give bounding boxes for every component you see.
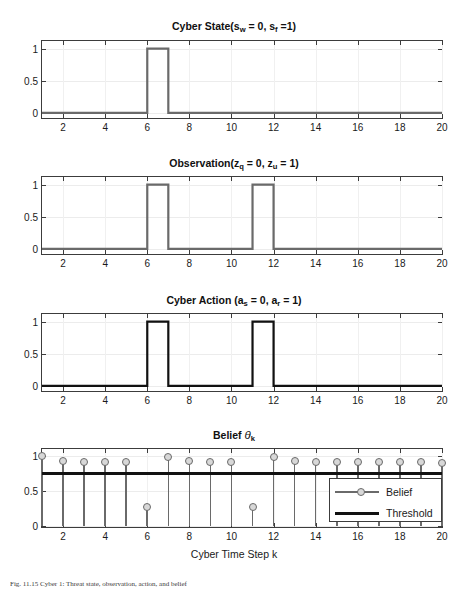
x-tick-mark xyxy=(105,449,106,453)
x-tick-label: 18 xyxy=(394,122,405,133)
figure-root: Cyber State(sw = 0, sf =1) 00.5124681012… xyxy=(0,0,468,590)
x-tick-label: 8 xyxy=(187,395,193,406)
x-tick-mark xyxy=(400,449,401,453)
y-tick-label: 0 xyxy=(32,107,38,118)
step-line xyxy=(42,49,442,113)
gridline-vertical xyxy=(442,314,443,391)
x-tick-label: 4 xyxy=(102,258,108,269)
belief-marker[interactable] xyxy=(122,458,130,466)
stem-line xyxy=(189,461,191,526)
x-tick-label: 18 xyxy=(394,395,405,406)
x-tick-label: 18 xyxy=(394,531,405,542)
x-tick-mark xyxy=(442,250,443,254)
step-line xyxy=(42,185,442,249)
x-tick-label: 6 xyxy=(144,531,150,542)
belief-marker[interactable] xyxy=(249,503,257,511)
title-end: = 1) xyxy=(280,294,301,306)
x-tick-label: 16 xyxy=(352,258,363,269)
title-text: Belief xyxy=(213,429,245,441)
x-tick-label: 20 xyxy=(436,531,447,542)
x-tick-label: 18 xyxy=(394,258,405,269)
x-tick-label: 14 xyxy=(310,395,321,406)
x-tick-mark xyxy=(316,449,317,453)
title-text: Cyber Action (a xyxy=(166,294,243,306)
x-tick-label: 12 xyxy=(268,395,279,406)
belief-marker[interactable] xyxy=(270,453,278,461)
x-tick-label: 16 xyxy=(352,122,363,133)
panel-title-belief: Belief θk xyxy=(0,429,468,443)
x-tick-label: 2 xyxy=(60,258,66,269)
title-text: Cyber State(s xyxy=(172,20,240,32)
belief-marker[interactable] xyxy=(396,458,404,466)
step-series xyxy=(42,41,442,118)
belief-marker[interactable] xyxy=(227,458,235,466)
y-tick-label: 0 xyxy=(32,243,38,254)
x-tick-label: 2 xyxy=(60,395,66,406)
stem-line xyxy=(273,457,275,526)
gridline-horizontal xyxy=(42,526,442,527)
x-tick-label: 4 xyxy=(102,395,108,406)
legend-item-threshold[interactable]: Threshold xyxy=(335,507,433,519)
x-tick-mark xyxy=(442,314,443,318)
x-tick-label: 2 xyxy=(60,122,66,133)
x-tick-label: 8 xyxy=(187,531,193,542)
x-tick-mark xyxy=(442,177,443,181)
belief-marker[interactable] xyxy=(101,458,109,466)
y-tick-label: 1 xyxy=(32,179,38,190)
figure-caption: Fig. 11.15 Cyber 1: Threat state, observ… xyxy=(10,580,460,589)
title-mid: = 0, z xyxy=(244,157,273,169)
y-tick-label: 0.5 xyxy=(24,348,38,359)
legend-item-belief[interactable]: Belief xyxy=(335,486,412,498)
belief-marker[interactable] xyxy=(417,458,425,466)
x-tick-label: 12 xyxy=(268,258,279,269)
legend-marker-icon xyxy=(357,488,365,496)
panel-belief: Belief θk 00.512468101214161820BeliefThr… xyxy=(0,420,468,590)
belief-marker[interactable] xyxy=(333,458,341,466)
x-tick-label: 16 xyxy=(352,395,363,406)
x-tick-label: 6 xyxy=(144,258,150,269)
step-series xyxy=(42,177,442,254)
x-tick-label: 10 xyxy=(226,395,237,406)
stem-line xyxy=(41,456,43,526)
x-tick-mark xyxy=(63,449,64,453)
axes-cyber-state: 00.512468101214161820 xyxy=(41,40,443,119)
legend-label: Belief xyxy=(386,486,412,498)
gridline-horizontal xyxy=(42,456,442,457)
belief-marker[interactable] xyxy=(143,503,151,511)
step-line xyxy=(42,322,442,386)
title-end: =1) xyxy=(278,20,296,32)
title-text: Observation(z xyxy=(169,157,239,169)
belief-marker[interactable] xyxy=(206,458,214,466)
belief-marker[interactable] xyxy=(164,453,172,461)
belief-marker[interactable] xyxy=(185,457,193,465)
belief-marker[interactable] xyxy=(59,457,67,465)
legend-label: Threshold xyxy=(386,507,433,519)
gridline-vertical xyxy=(442,177,443,254)
x-tick-label: 4 xyxy=(102,122,108,133)
x-tick-label: 12 xyxy=(268,122,279,133)
x-tick-label: 2 xyxy=(60,531,66,542)
belief-marker[interactable] xyxy=(312,458,320,466)
belief-marker[interactable] xyxy=(438,459,446,467)
y-tick-label: 0 xyxy=(32,380,38,391)
x-tick-label: 12 xyxy=(268,531,279,542)
axes-belief: 00.512468101214161820BeliefThreshold xyxy=(41,448,443,528)
title-sub-1: k xyxy=(251,434,255,443)
belief-marker[interactable] xyxy=(80,458,88,466)
y-tick-label: 0.5 xyxy=(24,485,38,496)
belief-marker[interactable] xyxy=(38,452,46,460)
y-tick-label: 0.5 xyxy=(24,75,38,86)
legend: BeliefThreshold xyxy=(329,478,442,522)
step-series xyxy=(42,314,442,391)
x-tick-label: 10 xyxy=(226,258,237,269)
x-tick-label: 10 xyxy=(226,531,237,542)
legend-swatch-belief xyxy=(335,491,379,493)
belief-marker[interactable] xyxy=(375,458,383,466)
belief-marker[interactable] xyxy=(291,457,299,465)
belief-marker[interactable] xyxy=(354,458,362,466)
x-tick-label: 6 xyxy=(144,122,150,133)
x-tick-label: 8 xyxy=(187,258,193,269)
panel-title-observation: Observation(zq = 0, zu = 1) xyxy=(0,157,468,171)
title-end: = 1) xyxy=(277,157,298,169)
x-tick-label: 20 xyxy=(436,122,447,133)
